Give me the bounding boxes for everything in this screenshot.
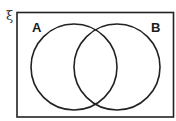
- set-b-label: B: [151, 21, 160, 34]
- set-a-label: A: [32, 21, 41, 34]
- venn-diagram: [0, 0, 176, 121]
- universal-set-symbol: ξ: [6, 9, 13, 22]
